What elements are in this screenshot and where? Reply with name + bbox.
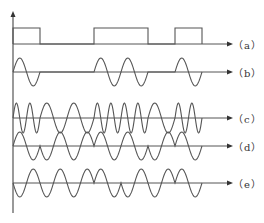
signal-b — [13, 58, 202, 86]
modulation-diagram — [0, 0, 264, 223]
label-c: （c） — [233, 111, 262, 126]
y-axis-arrow-icon — [11, 11, 16, 17]
label-b: （b） — [233, 65, 262, 80]
label-a: （a） — [233, 37, 262, 52]
waveform-d — [13, 132, 233, 160]
signal-a — [13, 28, 202, 44]
waveform-c — [13, 103, 233, 133]
waveform-b — [13, 58, 233, 86]
waveforms — [13, 28, 233, 197]
label-d: （d） — [233, 139, 262, 154]
waveform-e — [13, 169, 233, 197]
waveform-a — [13, 28, 233, 47]
label-e: （e） — [233, 176, 262, 191]
